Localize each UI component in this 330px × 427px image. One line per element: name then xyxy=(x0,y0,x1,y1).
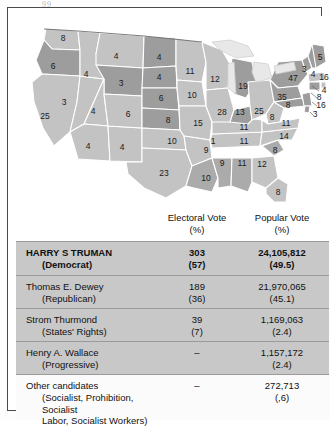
candidate-cell: Strom Thurmond (States' Rights) xyxy=(26,314,161,338)
header-electoral-vote-label: Electoral Vote xyxy=(168,212,227,223)
results-table: Electoral Vote (%) Popular Vote (%) HARR… xyxy=(16,208,329,419)
svg-text:9: 9 xyxy=(220,158,225,168)
candidate-name: Other candidates xyxy=(26,380,98,391)
svg-text:15: 15 xyxy=(193,118,203,128)
electoral-pct: (57) xyxy=(154,259,240,271)
candidate-cell: Other candidates (Socialist, Prohibition… xyxy=(26,380,161,427)
popular-value: 1,157,172 xyxy=(238,347,326,359)
state-KS xyxy=(142,108,180,130)
svg-text:25: 25 xyxy=(254,106,264,116)
svg-text:1: 1 xyxy=(211,136,216,146)
popular-cell: 1,169,063 (2.4) xyxy=(238,314,326,338)
svg-text:3: 3 xyxy=(62,97,67,107)
header-electoral-vote: Electoral Vote (%) xyxy=(154,212,240,235)
candidate-party-cont: Labor, Socialist Workers) xyxy=(26,415,161,427)
table-header-row: Electoral Vote (%) Popular Vote (%) xyxy=(16,208,329,241)
state-DE xyxy=(304,106,310,113)
svg-text:3: 3 xyxy=(302,64,307,74)
electoral-cell: – xyxy=(154,347,240,359)
popular-value: 21,970,065 xyxy=(238,281,326,293)
candidate-party: (Democrat) xyxy=(26,259,161,271)
state-NJ xyxy=(302,92,312,106)
popular-pct: (2.4) xyxy=(238,326,326,338)
electoral-cell: 303 (57) xyxy=(154,247,240,271)
popular-pct: (49.5) xyxy=(238,259,326,271)
state-CO xyxy=(104,94,142,128)
svg-text:9: 9 xyxy=(204,145,209,155)
svg-text:28: 28 xyxy=(217,107,227,117)
svg-text:23: 23 xyxy=(159,168,169,178)
figure-frame: .st{stroke:#ffffff;stroke-width:1.1;stro… xyxy=(7,7,322,411)
svg-text:6: 6 xyxy=(159,93,164,103)
svg-text:3: 3 xyxy=(313,109,318,119)
electoral-pct: (36) xyxy=(154,293,240,305)
svg-text:8: 8 xyxy=(166,115,171,125)
candidate-cell: Henry A. Wallace (Progressive) xyxy=(26,347,161,371)
popular-cell: 24,105,812 (49.5) xyxy=(238,247,326,271)
candidate-name: HARRY S TRUMAN xyxy=(26,247,112,258)
svg-text:4: 4 xyxy=(322,85,327,95)
svg-text:4: 4 xyxy=(120,142,125,152)
svg-text:25: 25 xyxy=(40,111,50,121)
candidate-name: Henry A. Wallace xyxy=(26,347,99,358)
svg-text:13: 13 xyxy=(235,107,245,117)
table-row: Henry A. Wallace (Progressive) – 1,157,1… xyxy=(16,341,329,374)
svg-text:5: 5 xyxy=(318,52,323,62)
svg-text:47: 47 xyxy=(288,73,298,83)
table-row: Thomas E. Dewey (Republican) 189 (36) 21… xyxy=(16,275,329,308)
electoral-value: 303 xyxy=(154,247,240,259)
svg-text:11: 11 xyxy=(282,118,291,128)
state-CT xyxy=(309,82,320,90)
candidate-name: Strom Thurmond xyxy=(26,314,97,325)
scan-artifact: 99 xyxy=(42,0,64,7)
electoral-cell: 39 (7) xyxy=(154,314,240,338)
header-popular-vote: Popular Vote (%) xyxy=(238,212,326,235)
svg-text:10: 10 xyxy=(201,173,211,183)
popular-cell: 21,970,065 (45.1) xyxy=(238,281,326,305)
svg-text:11: 11 xyxy=(240,122,249,132)
popular-pct: (45.1) xyxy=(238,293,326,305)
candidate-party: (Republican) xyxy=(26,293,161,305)
popular-pct: (,6) xyxy=(238,392,326,404)
popular-value: 24,105,812 xyxy=(238,247,326,259)
svg-text:4: 4 xyxy=(157,52,162,62)
svg-text:8: 8 xyxy=(286,100,291,110)
svg-text:4: 4 xyxy=(311,69,316,79)
svg-text:8: 8 xyxy=(276,187,281,197)
electoral-cell: – xyxy=(154,380,240,392)
svg-text:8: 8 xyxy=(273,145,278,155)
table-row: Other candidates (Socialist, Prohibition… xyxy=(16,374,329,419)
header-electoral-vote-pct: (%) xyxy=(190,224,205,235)
electoral-map: .st{stroke:#ffffff;stroke-width:1.1;stro… xyxy=(16,16,329,208)
svg-text:19: 19 xyxy=(238,81,248,91)
electoral-value: – xyxy=(154,380,240,392)
svg-text:8: 8 xyxy=(61,33,66,43)
lake-huron-erie xyxy=(252,62,272,82)
header-popular-vote-label: Popular Vote xyxy=(255,212,309,223)
header-popular-vote-pct: (%) xyxy=(275,224,290,235)
state-OK xyxy=(142,128,186,150)
us-map-svg: .st{stroke:#ffffff;stroke-width:1.1;stro… xyxy=(16,16,329,208)
candidate-party: (States' Rights) xyxy=(26,326,161,338)
electoral-cell: 189 (36) xyxy=(154,281,240,305)
popular-value: 1,169,063 xyxy=(238,314,326,326)
svg-text:4: 4 xyxy=(114,51,119,61)
state-MT xyxy=(96,33,144,68)
svg-text:4: 4 xyxy=(157,72,162,82)
svg-text:3: 3 xyxy=(119,78,124,88)
svg-text:11: 11 xyxy=(186,66,195,76)
svg-text:4: 4 xyxy=(84,69,89,79)
svg-text:6: 6 xyxy=(51,61,56,71)
candidate-cell: HARRY S TRUMAN (Democrat) xyxy=(26,247,161,271)
electoral-value: – xyxy=(154,347,240,359)
table-row: Strom Thurmond (States' Rights) 39 (7) 1… xyxy=(16,308,329,341)
svg-text:6: 6 xyxy=(126,109,131,119)
state-NM xyxy=(108,126,142,162)
candidate-party: (Progressive) xyxy=(26,359,161,371)
svg-text:4: 4 xyxy=(91,106,96,116)
svg-text:10: 10 xyxy=(167,136,177,146)
svg-text:12: 12 xyxy=(257,159,267,169)
popular-cell: 1,157,172 (2.4) xyxy=(238,347,326,371)
svg-text:12: 12 xyxy=(210,74,220,84)
